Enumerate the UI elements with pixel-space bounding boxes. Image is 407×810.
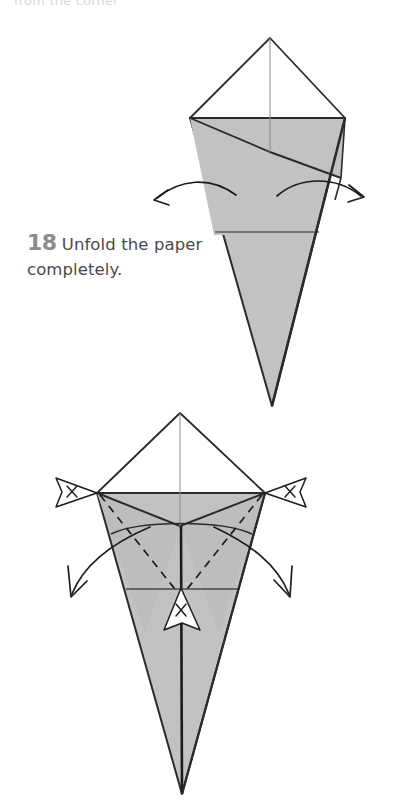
step-number: 18 (27, 230, 57, 255)
x-marker-left-corner (56, 478, 97, 507)
page-root: from the corner (0, 0, 407, 810)
figure-step-18-unfolding-result (0, 398, 407, 810)
x-marker-right-corner (265, 478, 306, 507)
flap-edge-right-lower (335, 178, 341, 200)
vertical-center-crease (181, 526, 182, 794)
figure-step-18-before-unfold (0, 0, 407, 420)
caption-block: 18 Unfold the paper completely. (27, 227, 217, 282)
